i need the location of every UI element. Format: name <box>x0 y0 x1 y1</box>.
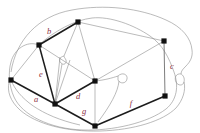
vertex-top <box>75 19 80 24</box>
edge-bridge-center-right <box>118 74 127 83</box>
vertex-upper-right <box>161 38 166 43</box>
vertex-left <box>8 77 13 82</box>
edge-bottom-left-arc <box>11 80 80 125</box>
edge-bridge-right <box>175 74 184 85</box>
edge-left-to-upleft <box>11 45 39 80</box>
edge-center-arc-right <box>95 76 118 81</box>
graph-figure: b e a d g f c <box>0 0 200 133</box>
edge-top-to-lowleft <box>64 22 78 56</box>
edge-top-to-center <box>78 22 95 81</box>
edge-label-f: f <box>130 98 134 108</box>
edge-g-thick <box>55 104 95 126</box>
graph-canvas: b e a d g f c <box>0 0 200 133</box>
edge-label-g: g <box>82 106 86 116</box>
edge-label-c: c <box>170 61 174 71</box>
edge-top-to-upright <box>78 22 164 41</box>
vertex-center <box>92 78 97 83</box>
vertex-lower-right <box>162 93 167 98</box>
edge-center-to-upright <box>95 41 164 81</box>
edge-label-d: d <box>76 91 81 101</box>
edge-arc-to-bottom <box>98 81 119 122</box>
vertex-bottom <box>92 123 97 128</box>
edge-label-b: b <box>47 26 51 36</box>
edge-c-mid <box>164 41 165 96</box>
vertex-lower-left <box>52 101 57 106</box>
edge-label-a: a <box>34 94 38 104</box>
vertex-upper-left <box>36 42 41 47</box>
edge-b-thick <box>39 22 78 45</box>
edge-label-e: e <box>39 69 43 79</box>
edge-outer-arc-right <box>181 50 192 74</box>
